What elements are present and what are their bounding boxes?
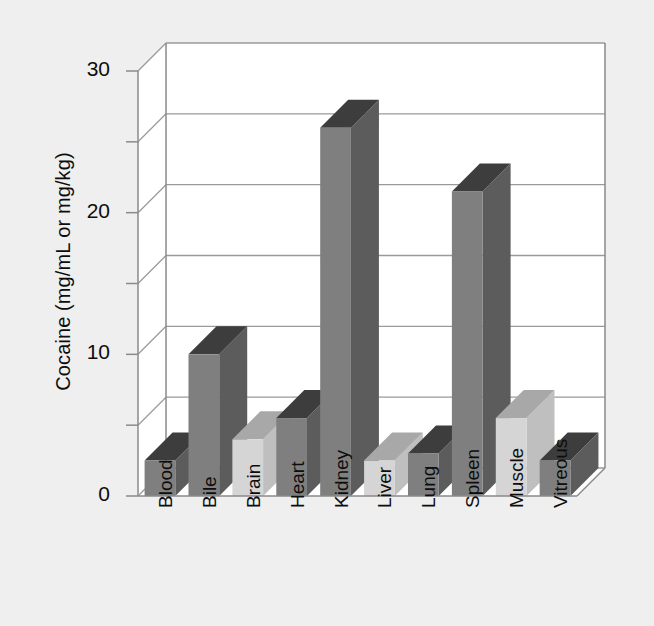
- x-tick-label-heart: Heart: [287, 462, 309, 508]
- y-tick-label-30: 30: [64, 57, 110, 81]
- y-tick-label-20: 20: [64, 199, 110, 223]
- y-tick-label-0: 0: [64, 482, 110, 506]
- x-tick-label-vitreous: Vitreous: [550, 439, 572, 508]
- x-tick-label-liver: Liver: [374, 467, 396, 508]
- x-tick-label-brain: Brain: [243, 464, 265, 508]
- x-tick-label-kidney: Kidney: [331, 450, 353, 508]
- chart-plot-area: [0, 0, 654, 626]
- chart-figure: Cocaine (mg/mL or mg/kg) 0102030 BloodBi…: [0, 0, 654, 626]
- x-tick-label-spleen: Spleen: [462, 449, 484, 508]
- x-tick-label-blood: Blood: [155, 459, 177, 508]
- bar-kidney: [320, 100, 379, 496]
- x-tick-label-lung: Lung: [418, 466, 440, 508]
- y-tick-label-10: 10: [64, 340, 110, 364]
- x-tick-label-bile: Bile: [199, 476, 221, 508]
- x-tick-label-muscle: Muscle: [506, 448, 528, 508]
